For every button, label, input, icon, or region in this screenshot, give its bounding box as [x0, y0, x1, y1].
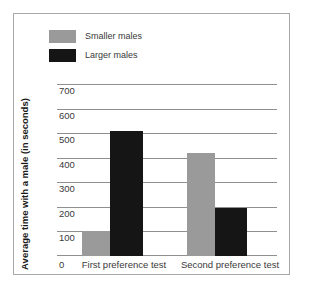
- plot-area: 700 600 500 400 300 200 100: [57, 84, 277, 256]
- legend-swatch-smaller-males: [49, 30, 76, 43]
- tick-label-500: 500: [59, 134, 75, 145]
- gridline-600: [57, 109, 277, 110]
- gridline-500: [57, 133, 277, 134]
- legend-swatch-larger-males: [49, 49, 76, 62]
- tick-label-400: 400: [59, 159, 75, 170]
- tick-label-700: 700: [59, 85, 75, 96]
- legend-item-larger-males: Larger males: [49, 48, 209, 63]
- bar-larger-males-first-preference-test: [110, 131, 143, 256]
- gridline-300: [57, 182, 277, 183]
- tick-label-300: 300: [59, 183, 75, 194]
- bar-smaller-males-second-preference-test: [187, 153, 215, 256]
- bar-smaller-males-first-preference-test: [82, 231, 110, 256]
- legend-label-larger-males: Larger males: [85, 49, 138, 62]
- tick-label-200: 200: [59, 208, 75, 219]
- gridline-400: [57, 158, 277, 159]
- bar-larger-males-second-preference-test: [215, 208, 247, 256]
- x-axis-label-first-preference-test: First preference test: [74, 259, 174, 270]
- axis-origin-label: 0: [59, 259, 64, 270]
- legend-item-smaller-males: Smaller males: [49, 29, 209, 44]
- tick-label-100: 100: [59, 232, 75, 243]
- gridline-700: [57, 84, 277, 85]
- legend-label-smaller-males: Smaller males: [85, 30, 142, 43]
- x-axis-label-second-preference-test: Second preference test: [174, 259, 286, 270]
- tick-label-600: 600: [59, 110, 75, 121]
- chart-legend: Smaller males Larger males: [49, 29, 209, 67]
- y-axis-title: Average time with a male (in seconds): [18, 98, 32, 270]
- chart-figure: Smaller males Larger males Average time …: [0, 0, 313, 289]
